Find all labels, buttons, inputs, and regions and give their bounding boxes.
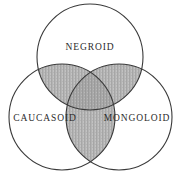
- venn-diagram: NEGROID CAUCASOID MONGOLOID: [0, 0, 181, 180]
- label-caucasoid: CAUCASOID: [13, 113, 77, 123]
- label-negroid: NEGROID: [65, 42, 114, 52]
- label-mongoloid: MONGOLOID: [104, 113, 171, 123]
- venn-diagram-canvas: NEGROID CAUCASOID MONGOLOID: [0, 0, 181, 180]
